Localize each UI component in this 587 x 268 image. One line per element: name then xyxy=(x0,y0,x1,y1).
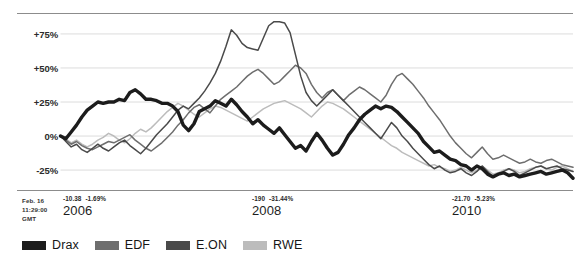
legend-swatch-icon-drax xyxy=(22,241,46,250)
timestamp-block: Feb. 16 11:29:00 GMT xyxy=(22,197,47,223)
series-line-drax xyxy=(61,90,574,179)
data-series xyxy=(61,22,574,179)
year-label-2006: 2006 xyxy=(63,203,106,218)
legend-item-eon[interactable]: E.ON xyxy=(166,238,227,252)
series-line-rwe xyxy=(61,101,574,175)
year-change-2010: -21.70-5.23% xyxy=(452,195,495,202)
series-line-eon xyxy=(61,22,574,177)
year-marker-2006: -10.38-1.69% 2006 xyxy=(63,195,106,218)
x-axis-region: Feb. 16 11:29:00 GMT -10.38-1.69% 2006 -… xyxy=(0,190,587,236)
timestamp-date: Feb. 16 xyxy=(22,197,47,206)
legend-item-drax[interactable]: Drax xyxy=(22,238,79,252)
legend-swatch-icon-edf xyxy=(95,241,119,250)
year-label-2008: 2008 xyxy=(252,203,293,218)
year-label-2010: 2010 xyxy=(452,203,495,218)
year-change-abs-2010: -21.70 xyxy=(452,195,470,202)
year-marker-2008: -190-31.44% 2008 xyxy=(252,195,293,218)
chart-legend: DraxEDFE.ONRWE xyxy=(22,238,318,252)
legend-label: EDF xyxy=(125,238,150,252)
timestamp-time: 11:29:00 xyxy=(22,206,47,215)
year-change-abs-2006: -10.38 xyxy=(63,195,81,202)
year-change-2006: -10.38-1.69% xyxy=(63,195,106,202)
plot-area: +75%+50%+25%0%-25% xyxy=(0,0,587,195)
legend-label: Drax xyxy=(52,238,79,252)
legend-label: RWE xyxy=(273,238,302,252)
chart-canvas xyxy=(0,0,587,195)
legend-item-edf[interactable]: EDF xyxy=(95,238,150,252)
year-change-pct-2008: -31.44% xyxy=(269,195,293,202)
legend-label: E.ON xyxy=(196,238,227,252)
year-change-pct-2010: -5.23% xyxy=(474,195,495,202)
legend-swatch-icon-rwe xyxy=(243,241,267,250)
timestamp-zone: GMT xyxy=(22,215,47,224)
legend-swatch-icon-eon xyxy=(166,241,190,250)
year-change-pct-2006: -1.69% xyxy=(85,195,106,202)
legend-item-rwe[interactable]: RWE xyxy=(243,238,302,252)
year-change-2008: -190-31.44% xyxy=(252,195,293,202)
stock-performance-chart: +75%+50%+25%0%-25% Feb. 16 11:29:00 GMT … xyxy=(0,0,587,268)
year-marker-2010: -21.70-5.23% 2010 xyxy=(452,195,495,218)
year-change-abs-2008: -190 xyxy=(252,195,265,202)
